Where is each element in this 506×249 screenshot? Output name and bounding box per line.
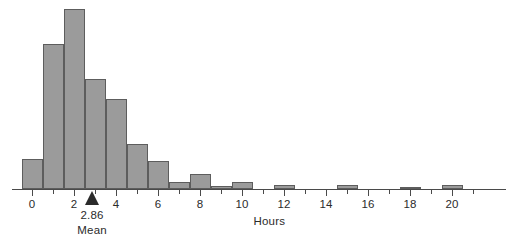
x-axis-tick-label: 16 bbox=[361, 198, 374, 210]
x-axis-tick bbox=[368, 190, 369, 196]
x-axis-tick bbox=[221, 190, 222, 194]
x-axis-tick-label: 0 bbox=[29, 198, 36, 210]
histogram-bar bbox=[127, 144, 148, 189]
mean-text-label: Mean bbox=[77, 224, 107, 236]
x-axis-tick bbox=[179, 190, 180, 194]
histogram-bar bbox=[232, 182, 253, 189]
x-axis-tick bbox=[473, 190, 474, 194]
x-axis-tick-label: 12 bbox=[277, 198, 290, 210]
x-axis-tick bbox=[158, 190, 159, 196]
x-axis-tick bbox=[53, 190, 54, 194]
x-axis-tick bbox=[137, 190, 138, 194]
histogram-bar bbox=[22, 159, 43, 189]
x-axis-tick bbox=[410, 190, 411, 196]
x-axis-tick-label: 10 bbox=[235, 198, 248, 210]
x-axis-tick bbox=[431, 190, 432, 194]
histogram-bar bbox=[106, 99, 127, 189]
x-axis-tick-label: 20 bbox=[445, 198, 458, 210]
x-axis-tick-label: 14 bbox=[319, 198, 332, 210]
x-axis-tick-label: 4 bbox=[113, 198, 120, 210]
x-axis-tick bbox=[452, 190, 453, 196]
x-axis-tick bbox=[200, 190, 201, 196]
histogram-bar bbox=[169, 182, 190, 189]
x-axis-tick-label: 6 bbox=[155, 198, 162, 210]
histogram-chart: 02468101214161820 Hours 2.86 Mean bbox=[0, 0, 506, 249]
x-axis-tick bbox=[116, 190, 117, 196]
plot-area: 02468101214161820 Hours 2.86 Mean bbox=[0, 0, 506, 249]
x-axis-tick bbox=[284, 190, 285, 196]
x-axis-tick-label: 18 bbox=[403, 198, 416, 210]
x-axis-tick bbox=[347, 190, 348, 194]
x-axis-tick bbox=[389, 190, 390, 194]
mean-value-label: 2.86 bbox=[80, 209, 103, 221]
histogram-bar bbox=[85, 79, 106, 189]
x-axis-tick bbox=[263, 190, 264, 194]
x-axis-tick-label: 8 bbox=[197, 198, 204, 210]
mean-marker-triangle-icon bbox=[85, 191, 99, 205]
histogram-bar bbox=[43, 44, 64, 189]
x-axis-tick bbox=[32, 190, 33, 196]
x-axis-tick bbox=[242, 190, 243, 196]
histogram-bar bbox=[148, 161, 169, 189]
histogram-bar bbox=[64, 9, 85, 189]
x-axis-title: Hours bbox=[253, 215, 285, 227]
x-axis-tick bbox=[305, 190, 306, 194]
x-axis-tick-label: 2 bbox=[71, 198, 78, 210]
x-axis-tick bbox=[74, 190, 75, 196]
x-axis-tick bbox=[326, 190, 327, 196]
histogram-bar bbox=[190, 174, 211, 189]
